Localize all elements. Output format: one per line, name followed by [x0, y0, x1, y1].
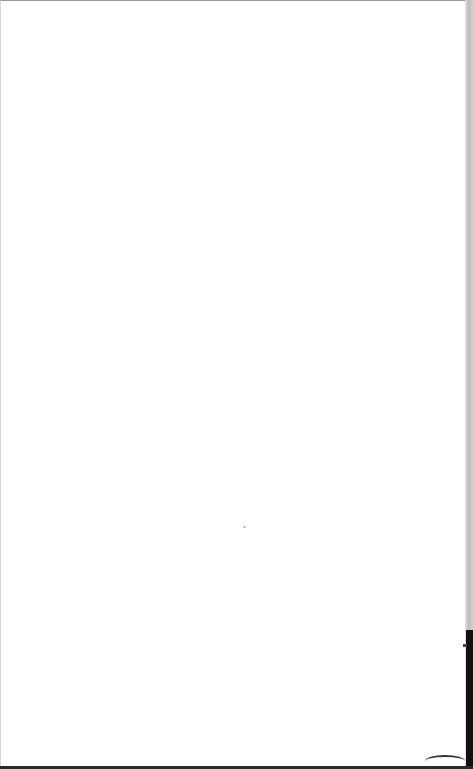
- blank-page: [0, 0, 466, 768]
- page-edge-dark: [466, 630, 473, 769]
- scan-speck: [243, 526, 246, 528]
- page-edge-notch: [463, 644, 467, 647]
